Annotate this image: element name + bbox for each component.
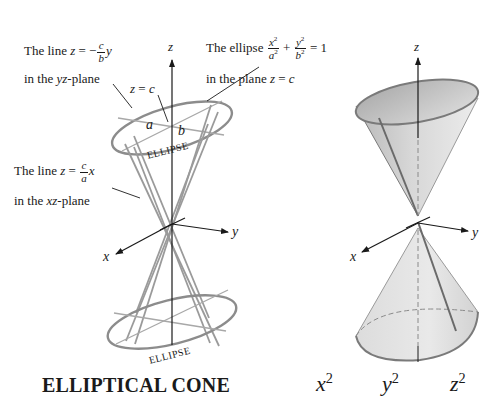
annotation-line-xz-plane: in the xz-plane [14,194,90,207]
fraction-c-over-b: cb [97,40,105,64]
x-axis-label-right: x [350,250,356,264]
annotation-ellipse: The ellipse x2a2 + y2b2 = 1 [206,36,327,61]
y-axis-label-right: y [472,226,478,240]
annotation-ellipse-plane: in the plane z = c [206,72,295,85]
semi-axis-b-label: b [178,124,185,138]
annotation-line-yz: The line z = −cby [24,40,112,64]
annotation-z-equals-c: z = c [130,82,155,95]
left-wireframe-cone [103,60,259,359]
right-shaded-cone [352,58,481,362]
y-axis-label-left: y [232,225,238,239]
figure-title: ELLIPTICAL CONE [42,374,230,397]
equation-term-z2: z2 [450,370,466,397]
z-axis-label-left: z [168,40,173,53]
semi-axis-a-label: a [146,118,153,132]
fraction-c-over-a: ca [80,160,88,184]
y-axis [172,224,228,232]
fraction-y2-over-b2: y2b2 [295,36,306,61]
equation-term-x2: x2 [316,370,333,397]
fraction-x2-over-a2: x2a2 [268,36,279,61]
annotation-line-xz: The line z = cax [14,160,94,184]
x-axis-label-left: x [103,250,109,264]
y-axis-right [418,223,468,231]
z-axis-label-right: z [414,40,419,53]
equation-term-y2: y2 [382,370,399,397]
annotation-line-yz-plane: in the yz-plane [24,72,100,85]
